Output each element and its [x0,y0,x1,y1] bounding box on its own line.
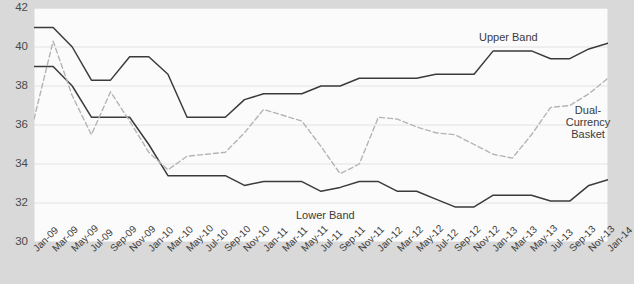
upper-band-label: Upper Band [479,31,538,43]
plot-svg [34,8,608,242]
basket-label-line3: Basket [562,128,614,140]
y-axis-tick-label: 42 [2,2,28,13]
series-line-lower-band [34,67,608,207]
basket-label: Dual- Currency Basket [562,104,614,140]
series-line-dual-currency-basket [34,41,608,174]
lower-band-label: Lower Band [296,209,355,221]
plot-area [34,8,608,242]
basket-label-line1: Dual- [562,104,614,116]
y-axis-tick-label: 32 [2,197,28,208]
y-axis-tick-label: 34 [2,158,28,169]
basket-label-line2: Currency [562,116,614,128]
y-axis-tick-label: 38 [2,80,28,91]
y-axis-tick-label: 40 [2,41,28,52]
y-axis-tick-label: 30 [2,236,28,247]
y-axis-tick-label: 36 [2,119,28,130]
